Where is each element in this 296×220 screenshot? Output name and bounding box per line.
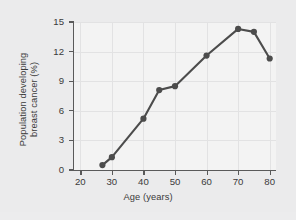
x-tick-mark [207,171,208,175]
x-tick-mark [80,171,81,175]
data-point-marker [140,116,146,122]
data-point-marker [109,154,115,160]
series-markers [99,26,272,168]
y-axis-spine [73,21,74,171]
x-tick-mark [175,171,176,175]
data-point-marker [235,26,241,32]
y-tick-mark [69,81,73,82]
x-tick-label: 80 [257,176,283,187]
data-point-marker [267,55,273,61]
y-tick-mark [69,21,73,22]
y-axis-label-line2: breast cancer (%) [29,19,40,179]
y-tick-mark [69,51,73,52]
data-series-svg [74,22,276,170]
data-point-marker [156,87,162,93]
y-tick-mark [69,140,73,141]
y-tick-mark [69,110,73,111]
data-point-marker [203,52,209,58]
y-tick-label: 15 [40,16,64,27]
x-axis-label: Age (years) [0,192,296,202]
plot-area [74,22,276,170]
chart-figure: Population developing breast cancer (%) … [0,0,296,220]
y-tick-mark [69,169,73,170]
y-axis-label-line1: Population developing [18,53,28,147]
x-tick-mark [238,171,239,175]
x-tick-label: 70 [225,176,251,187]
y-tick-label: 3 [40,134,64,145]
data-point-marker [172,83,178,89]
y-tick-label: 0 [40,164,64,175]
data-point-marker [251,29,257,35]
x-tick-label: 60 [194,176,220,187]
x-tick-label: 30 [99,176,125,187]
y-tick-label: 6 [40,105,64,116]
series-line [102,29,269,165]
y-tick-label: 12 [40,46,64,57]
y-axis-label: Population developing breast cancer (%) [18,19,41,179]
x-tick-mark [143,171,144,175]
x-tick-mark [270,171,271,175]
x-tick-label: 40 [130,176,156,187]
x-tick-mark [112,171,113,175]
x-tick-label: 50 [162,176,188,187]
data-point-marker [99,162,105,168]
y-tick-label: 9 [40,75,64,86]
x-tick-label: 20 [67,176,93,187]
